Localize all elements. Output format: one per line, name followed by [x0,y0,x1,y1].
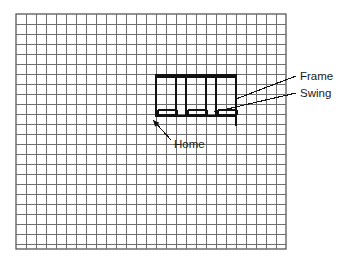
grid-background [16,14,286,249]
swing-set-diagram: Frame Swing Home [0,0,347,262]
diagram-canvas: Frame Swing Home [0,0,347,262]
swing-label: Swing [300,87,331,99]
home-label: Home [174,138,205,150]
frame-label: Frame [300,70,333,82]
